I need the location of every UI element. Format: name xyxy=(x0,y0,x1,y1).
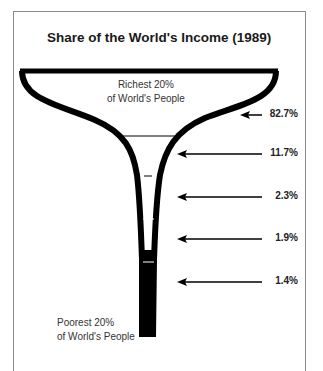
poorest-label-line2: of World's People xyxy=(57,330,135,344)
funnel-stem xyxy=(140,250,156,337)
funnel-outline-right xyxy=(153,71,276,337)
funnel-outline-left xyxy=(22,71,142,337)
percentage-label: 11.7% xyxy=(270,147,298,158)
percentage-label: 1.9% xyxy=(275,232,298,243)
richest-label-line1: Richest 20% xyxy=(107,78,185,92)
poorest-label: Poorest 20% of World's People xyxy=(57,316,135,344)
percentage-label: 2.3% xyxy=(275,190,298,201)
poorest-label-line1: Poorest 20% xyxy=(57,316,135,330)
percentage-label: 82.7% xyxy=(270,108,298,119)
percentage-label: 1.4% xyxy=(275,275,298,286)
richest-label-line2: of World's People xyxy=(107,92,185,106)
richest-label: Richest 20% of World's People xyxy=(107,78,185,106)
